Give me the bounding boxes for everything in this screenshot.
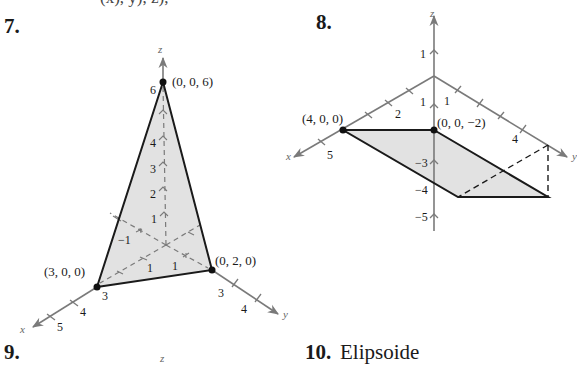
- y-axis-label: y: [282, 308, 288, 320]
- x-tick-4: 4: [80, 305, 86, 319]
- x-tick-5: 5: [57, 320, 63, 334]
- z-tick-neg5: −5: [415, 210, 428, 224]
- z-axis-label: z: [429, 7, 435, 19]
- x-axis: [33, 287, 97, 327]
- point-3-0-0: [94, 284, 101, 291]
- y-tick-4: 4: [241, 302, 247, 316]
- label-3-0-0: (3, 0, 0): [44, 264, 85, 279]
- z-tick-1-top: 1: [420, 47, 426, 61]
- z-tick-1: 1: [151, 212, 157, 226]
- label-0-0-neg2: (0, 0, −2): [437, 115, 486, 130]
- z-tick-4: 4: [150, 136, 156, 150]
- z-tick-neg4: −4: [415, 183, 428, 197]
- y-tick-4: 4: [512, 132, 518, 146]
- z-tick-neg3: −3: [415, 156, 428, 170]
- label-0-0-6: (0, 0, 6): [172, 74, 213, 89]
- x-tick-neg1: −1: [118, 233, 131, 247]
- figure-7-plane: (0, 0, 6) (3, 0, 0) (0, 2, 0) z x y 6 4 …: [19, 43, 288, 335]
- x-axis-label: x: [285, 150, 291, 162]
- x-tick-5: 5: [327, 148, 333, 162]
- y-tick-3: 3: [218, 286, 224, 300]
- y-axis-label: y: [571, 150, 577, 162]
- label-4-0-0: (4, 0, 0): [302, 111, 343, 126]
- y-tick-1: 1: [172, 259, 178, 273]
- z-tick-6: 6: [150, 83, 156, 97]
- x-tick-1: 1: [147, 261, 153, 275]
- label-0-2-0: (0, 2, 0): [215, 253, 256, 268]
- y-tick-1: 1: [444, 94, 450, 108]
- x-tick-2: 2: [395, 107, 401, 121]
- plane-region: [97, 82, 212, 287]
- point-0-0-6: [160, 79, 167, 86]
- x-tick-3: 3: [102, 289, 108, 303]
- z-tick-3: 3: [150, 162, 156, 176]
- figures-canvas: (0, 0, 6) (3, 0, 0) (0, 2, 0) z x y 6 4 …: [0, 0, 577, 368]
- z-tick-2: 2: [150, 187, 156, 201]
- figure-8-plane: (4, 0, 0) (0, 0, −2) z x y 1 1 −3 −4 −5 …: [285, 7, 577, 231]
- figure-9-z-axis-label: z: [159, 352, 165, 364]
- z-axis-label: z: [157, 43, 163, 55]
- x-axis-label: x: [19, 323, 25, 335]
- z-tick-1: 1: [420, 95, 426, 109]
- point-4-0-0: [340, 127, 347, 134]
